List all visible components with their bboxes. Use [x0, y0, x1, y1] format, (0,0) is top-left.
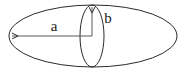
ellipsoid-diagram: a b [0, 0, 188, 73]
semi-minor-axis-label: b [104, 10, 112, 26]
diagram-canvas: a b [0, 0, 188, 73]
semi-major-axis-label: a [51, 18, 58, 34]
